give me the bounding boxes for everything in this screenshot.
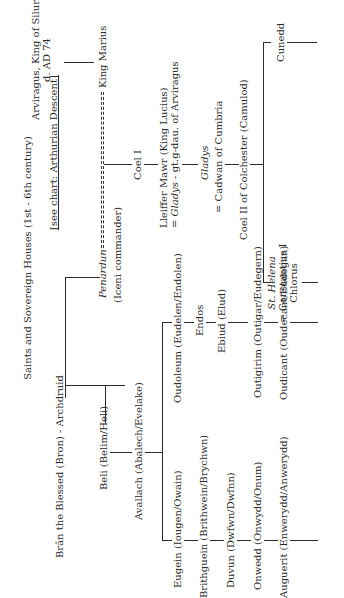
connector [104, 164, 132, 165]
genealogy-chart: Saints and Sovereign Houses (1st - 6th c… [0, 0, 344, 598]
person-lleiffer-mawr: Lleiffer Mawr (King Lucius) = Gladys - g… [158, 88, 180, 228]
connector [144, 164, 158, 165]
person-gladys: Gladys [199, 146, 210, 180]
person-cadwan: = Cadwan of Cumbria [213, 100, 224, 213]
connector [264, 540, 278, 541]
person-duvun: Duvun (Dwfwn/Dwfnn) [225, 472, 236, 588]
person-ebiud: Ebiud (Elud) [216, 289, 227, 353]
iceni-note: (Iceni commander) [112, 207, 123, 303]
connector [65, 278, 66, 386]
connector [145, 452, 163, 453]
connector [210, 540, 224, 541]
connector [290, 322, 318, 323]
connector [162, 322, 172, 323]
person-avallach: Avallach (Abalech/Evelake) [133, 382, 144, 520]
connector [65, 277, 100, 278]
person-endos: Endos [194, 305, 205, 336]
connector [184, 322, 194, 323]
connector [290, 540, 318, 541]
person-king-marius: King Marius [97, 26, 108, 88]
connector [287, 42, 317, 43]
person-outigirim: Outigirim (Outigar/Eudegern) [252, 246, 263, 398]
connector [225, 164, 239, 165]
person-auguerit: Auguerit (Enwerydd/Anwerydd) [278, 436, 289, 598]
person-arviragus: Arviragus, King of Siluria d. AD 74 [30, 0, 52, 120]
person-penardun: Penardun [97, 249, 108, 298]
connector [228, 322, 248, 323]
connector [250, 164, 264, 165]
connector [65, 385, 66, 398]
person-beli: Beli (Belim/Heli) [98, 406, 109, 490]
chart-title: Saints and Sovereign Houses (1st - 6th c… [22, 108, 33, 408]
person-brithguein: Brithguein (Brithwein/Brychwn) [198, 435, 209, 598]
connector [264, 322, 278, 323]
person-coel-i: Coel I [132, 150, 143, 180]
person-cunedd: Cunedd [275, 23, 286, 62]
connector [302, 282, 318, 283]
connector [263, 42, 271, 43]
connector [206, 322, 216, 323]
connector [162, 540, 172, 541]
person-eugein: Eugein (Iougen/Owain) [172, 470, 183, 588]
connector [162, 323, 163, 541]
person-oudoleum: Oudoleum (Eudelen/Endolen) [172, 253, 183, 403]
person-oudicant: Oudicant (Oudecant/Eudegan) [278, 246, 289, 400]
person-onwedd: Onwedd (Onwydd/Onum) [252, 462, 263, 590]
connector [64, 62, 94, 63]
connector [110, 452, 132, 453]
person-bran: Brân the Blessed (Bron) - Archdruid [54, 375, 65, 558]
connector [263, 43, 264, 283]
marriage-dashed-line [101, 92, 104, 248]
connector [182, 164, 198, 165]
person-coel-ii: Coel II of Colchester (Camulod) [238, 79, 249, 240]
connector [237, 540, 251, 541]
connector [184, 540, 198, 541]
